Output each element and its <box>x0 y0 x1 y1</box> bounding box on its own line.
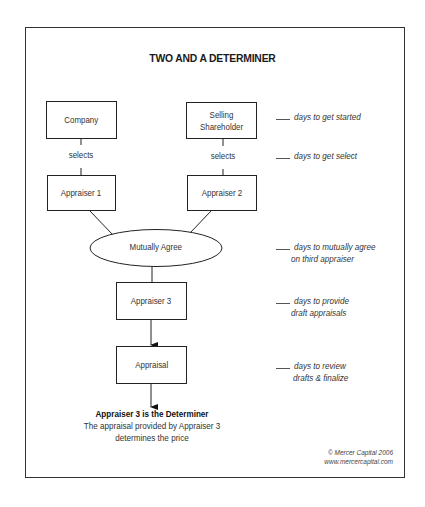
conclusion-heading: Appraiser 3 is the Determiner <box>69 408 235 420</box>
blank-field <box>276 158 290 159</box>
credit-block: © Mercer Capital 2006 www.mercercapital.… <box>324 448 393 466</box>
conclusion-line-1: The appraisal provided by Appraiser 3 <box>69 420 235 432</box>
node-appraisal-label: Appraisal <box>135 359 168 371</box>
node-appraisal: Appraisal <box>116 346 187 384</box>
timeline-note-draft: days to provide draft appraisals <box>276 295 355 319</box>
timeline-note-started: days to get started <box>276 111 368 123</box>
node-appraiser-3: Appraiser 3 <box>116 282 187 320</box>
timeline-note-mutually-agree: days to mutually agree on third appraise… <box>276 241 385 265</box>
edge-label-shareholder-selects: selects <box>198 151 248 161</box>
node-selling-shareholder-line2: Shareholder <box>200 121 243 133</box>
node-selling-shareholder: Selling Shareholder <box>186 102 257 139</box>
node-appraiser-2-label: Appraiser 2 <box>202 187 243 199</box>
blank-field <box>276 303 290 304</box>
node-appraiser-1: Appraiser 1 <box>47 175 116 211</box>
node-appraiser-2: Appraiser 2 <box>187 175 257 211</box>
node-mutually-agree-label: Mutually Agree <box>96 242 216 252</box>
node-company: Company <box>46 101 117 139</box>
connector-appraiser1-agree <box>90 211 113 235</box>
blank-field <box>276 249 290 250</box>
node-company-label: Company <box>65 114 99 126</box>
conclusion-text: Appraiser 3 is the Determiner The apprai… <box>60 408 244 444</box>
conclusion-line-2: determines the price <box>69 432 235 444</box>
blank-field <box>276 119 290 120</box>
website-text: www.mercercapital.com <box>324 457 393 466</box>
node-appraiser-1-label: Appraiser 1 <box>61 187 102 199</box>
node-selling-shareholder-line1: Selling <box>210 109 234 121</box>
connector-appraiser2-agree <box>190 211 211 233</box>
node-appraiser-3-label: Appraiser 3 <box>131 295 172 307</box>
edge-label-company-selects: selects <box>56 150 106 160</box>
timeline-note-select: days to get select <box>276 150 364 162</box>
blank-field <box>276 368 290 369</box>
copyright-text: © Mercer Capital 2006 <box>324 448 393 457</box>
timeline-note-review: days to review drafts & finalize <box>276 360 355 384</box>
